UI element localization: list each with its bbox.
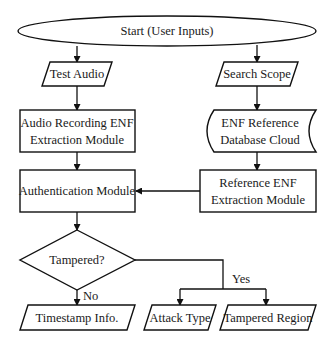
tampered-region-label: Tampered Region [223,311,313,325]
edge-tampered-yes-trunk [135,260,223,289]
timestamp-node: Timestamp Info. [20,305,135,330]
auth-label: Authentication Module [19,184,136,198]
flowchart-canvas: Start (User Inputs) Test Audio Search Sc… [0,0,334,353]
edge-label-yes: Yes [232,272,250,286]
attack-type-label: Attack Type [149,311,210,325]
search-scope-label: Search Scope [223,67,291,81]
ref-enf-label-line1: Reference ENF [219,176,296,190]
edge-label-no: No [83,289,98,303]
tampered-decision-node: Tampered? [20,230,135,290]
test-audio-node: Test Audio [42,62,112,86]
test-audio-label: Test Audio [50,67,104,81]
attack-type-node: Attack Type [144,305,216,330]
start-node: Start (User Inputs) [18,16,316,46]
auth-node: Authentication Module [19,170,136,212]
ref-enf-node: Reference ENF Extraction Module [200,170,316,212]
tampered-region-node: Tampered Region [220,305,316,330]
enf-db-label-line1: ENF Reference [221,116,299,130]
start-label: Start (User Inputs) [120,24,213,38]
search-scope-node: Search Scope [216,62,298,86]
ref-enf-label-line2: Extraction Module [211,193,306,207]
audio-enf-label-line1: Audio Recording ENF [20,116,133,130]
timestamp-label: Timestamp Info. [36,311,119,325]
enf-db-node: ENF Reference Database Cloud [207,110,316,152]
enf-db-label-line2: Database Cloud [220,133,300,147]
audio-enf-label-line2: Extraction Module [30,133,125,147]
tampered-label: Tampered? [49,253,105,267]
audio-enf-node: Audio Recording ENF Extraction Module [20,110,135,152]
